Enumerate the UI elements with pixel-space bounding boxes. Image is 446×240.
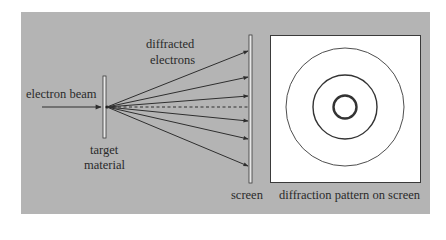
label-electrons: electrons (150, 53, 195, 67)
label-electron-beam: electron beam (26, 87, 96, 101)
screen-plate (249, 35, 252, 183)
label-target: target (90, 143, 118, 157)
diffraction-pattern-box (271, 36, 421, 183)
label-screen: screen (231, 188, 263, 202)
label-diffracted: diffracted (146, 37, 194, 51)
label-material: material (84, 158, 125, 172)
label-diffraction-pattern: diffraction pattern on screen (279, 188, 420, 202)
